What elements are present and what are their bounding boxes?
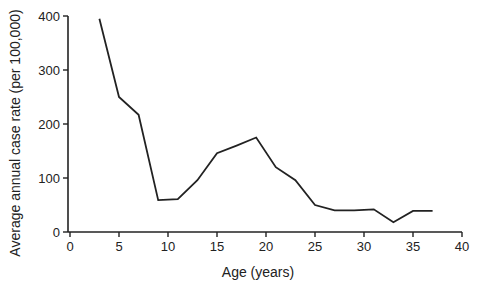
y-tick-label: 0 bbox=[53, 225, 60, 240]
x-tick-label: 35 bbox=[406, 239, 420, 254]
y-tick-label: 400 bbox=[38, 9, 60, 24]
x-tick-label: 40 bbox=[455, 239, 469, 254]
x-tick-label: 15 bbox=[210, 239, 224, 254]
x-tick-label: 20 bbox=[259, 239, 273, 254]
y-axis-title: Average annual case rate (per 100,000) bbox=[7, 9, 23, 256]
x-axis: 0510152025303540 bbox=[66, 232, 469, 254]
y-tick-label: 300 bbox=[38, 63, 60, 78]
x-tick-label: 10 bbox=[161, 239, 175, 254]
y-tick-label: 100 bbox=[38, 171, 60, 186]
y-tick-label: 200 bbox=[38, 117, 60, 132]
plot-series bbox=[99, 19, 432, 223]
x-tick-label: 25 bbox=[308, 239, 322, 254]
x-tick-label: 30 bbox=[357, 239, 371, 254]
x-tick-label: 0 bbox=[66, 239, 73, 254]
data-line bbox=[99, 19, 432, 223]
x-tick-label: 5 bbox=[115, 239, 122, 254]
x-axis-title: Age (years) bbox=[222, 264, 294, 280]
line-chart: 0100200300400 0510152025303540 Age (year… bbox=[0, 0, 478, 294]
y-axis: 0100200300400 bbox=[38, 9, 68, 240]
